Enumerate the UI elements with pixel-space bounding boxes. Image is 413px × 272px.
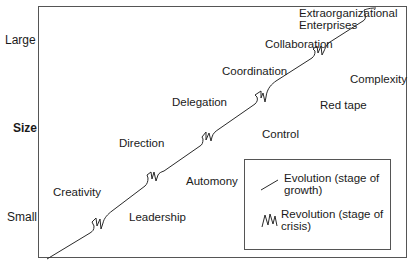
legend-revolution-line1: Revolution (stage of — [281, 208, 383, 220]
stage-extraorganizational-enterprises: Extraorganizational Enterprises — [299, 7, 394, 31]
stage-collaboration: Collaboration — [265, 38, 333, 51]
crisis-automony: Automony — [186, 175, 238, 188]
stage-coordination: Coordination — [222, 65, 287, 78]
legend-item-evolution: Evolution (stage of growth) — [259, 172, 379, 196]
crisis-leadership: Leadership — [129, 211, 186, 224]
evolution-line-icon — [259, 172, 281, 194]
revolution-zigzag-icon — [261, 208, 279, 230]
legend: Evolution (stage of growth) Revolution (… — [244, 159, 391, 250]
stage-delegation: Delegation — [172, 96, 227, 109]
legend-revolution-line2: crisis) — [281, 220, 383, 232]
legend-item-revolution: Revolution (stage of crisis) — [261, 208, 383, 232]
legend-evolution-line1: Evolution (stage of — [284, 172, 379, 184]
stage-direction: Direction — [119, 137, 164, 150]
crisis-control: Control — [262, 128, 299, 141]
stage-creativity: Creativity — [53, 186, 101, 199]
crisis-complexity: Complexity — [350, 73, 407, 86]
crisis-red-tape: Red tape — [320, 99, 367, 112]
legend-evolution-line2: growth) — [284, 184, 379, 196]
